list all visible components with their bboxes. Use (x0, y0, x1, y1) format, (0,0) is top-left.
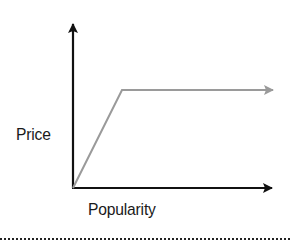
dotted-divider (0, 238, 290, 240)
y-axis-label: Price (16, 126, 51, 143)
price-line-arrow (73, 90, 273, 188)
diagram-canvas: Price Popularity (0, 0, 290, 243)
x-axis-label: Popularity (88, 201, 156, 218)
